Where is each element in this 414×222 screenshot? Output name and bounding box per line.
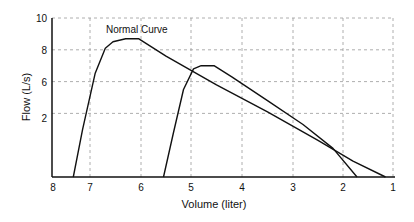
axes [52,18,395,177]
data-series [73,39,385,177]
flow-volume-chart: 87654321 10862 Normal Curve Volume (lite… [0,0,414,222]
second-curve-line [164,66,358,177]
x-tick-label: 3 [290,182,296,193]
y-tick-label: 8 [41,45,47,56]
x-tick-label: 8 [50,182,56,193]
x-tick-label: 6 [138,182,144,193]
y-tick-labels: 10862 [36,13,48,124]
y-tick-label: 2 [41,113,47,124]
x-tick-label: 4 [239,182,245,193]
x-tick-label: 2 [340,182,346,193]
annotations: Normal Curve [106,24,168,35]
y-tick-label: 6 [41,77,47,88]
x-tick-labels: 87654321 [50,182,396,193]
x-tick-label: 5 [188,182,194,193]
x-tick-label: 1 [390,182,396,193]
x-tick-label: 7 [87,182,93,193]
y-axis-label: Flow (L/s) [20,73,32,121]
grid-lines [52,18,393,177]
normal-curve-line [73,39,385,177]
x-axis-label: Volume (liter) [182,198,247,210]
y-tick-label: 10 [36,13,48,24]
curve-annotation: Normal Curve [106,24,168,35]
